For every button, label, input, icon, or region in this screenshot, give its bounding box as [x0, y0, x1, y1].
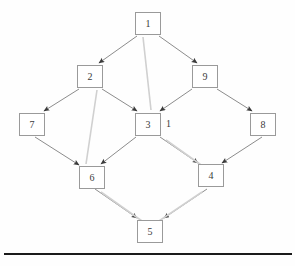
graph-node-1[interactable]: 1: [135, 12, 161, 35]
node-label: 1: [146, 19, 151, 29]
edge-2-to-3: [102, 89, 137, 111]
graph-node-4[interactable]: 4: [198, 164, 224, 187]
node-label: 4: [209, 171, 214, 181]
graph-node-5[interactable]: 5: [137, 220, 163, 243]
edge-1-to-9: [159, 36, 197, 63]
diagram-canvas: 129738645 1: [0, 0, 295, 266]
edge-6-to-5: [101, 192, 142, 221]
graph-node-9[interactable]: 9: [192, 65, 218, 88]
node-label: 8: [261, 120, 266, 130]
edge-1-to-3: [143, 37, 151, 110]
edge-8-to-4: [222, 137, 262, 163]
edge-9-to-8: [217, 89, 252, 111]
graph-node-3[interactable]: 3: [135, 113, 161, 136]
node-label: 3: [146, 120, 151, 130]
edge-3-to-4: [166, 140, 204, 167]
edge-2-to-6: [86, 90, 97, 164]
edge-1-to-2: [99, 36, 137, 63]
node-label: 5: [148, 227, 153, 237]
edge-7-to-6: [35, 137, 79, 165]
node-label: 6: [90, 173, 95, 183]
graph-node-2[interactable]: 2: [77, 65, 103, 88]
graph-node-7[interactable]: 7: [19, 113, 45, 136]
edge-label-1: 1: [166, 119, 171, 129]
edge-2-to-7: [44, 89, 79, 111]
graph-node-8[interactable]: 8: [250, 113, 276, 136]
graph-node-6[interactable]: 6: [79, 166, 105, 189]
node-label: 7: [30, 120, 35, 130]
node-label: 2: [88, 72, 93, 82]
edge-3-to-6: [101, 137, 136, 164]
edge-4-to-5: [159, 192, 202, 221]
edge-9-to-3: [160, 89, 192, 111]
baseline-rule: [4, 253, 292, 255]
node-label: 9: [203, 72, 208, 82]
